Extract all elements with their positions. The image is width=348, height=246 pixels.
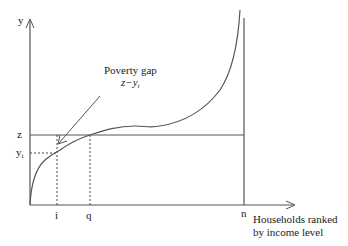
n-tick-label: n — [241, 207, 247, 219]
poverty-gap-formula: z−yi — [121, 76, 140, 92]
z-tick-label: z — [17, 128, 22, 140]
poverty-gap-title: Poverty gap — [104, 64, 157, 76]
diagram-canvas — [0, 0, 348, 246]
x-axis-label-line1: Households ranked — [253, 213, 338, 225]
q-tick-label: q — [86, 209, 92, 221]
i-tick-label: i — [55, 209, 58, 221]
poverty-gap-formula-main: z−y — [121, 76, 138, 88]
income-curve — [30, 10, 240, 205]
poverty-gap-formula-sub: i — [138, 82, 140, 90]
yi-tick-label: yi — [16, 146, 23, 162]
y-axis-label: y — [18, 14, 24, 26]
poverty-gap-pointer — [59, 96, 100, 143]
x-axis-label-line2: by income level — [253, 226, 323, 238]
yi-tick-sub: i — [22, 152, 24, 160]
